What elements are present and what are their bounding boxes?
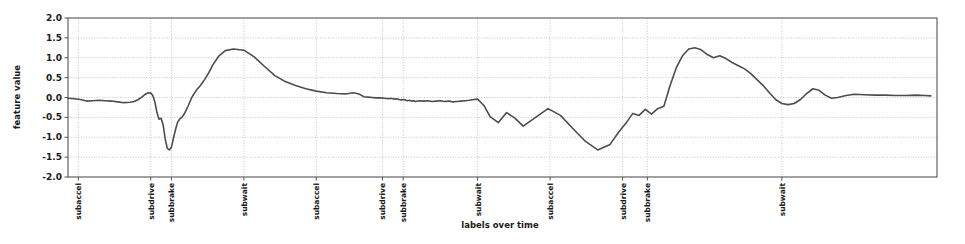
x-tick-label: subwait [474, 183, 483, 217]
y-tick-label: -1.0 [42, 132, 62, 142]
y-tick-label: 1.5 [46, 33, 62, 43]
x-tick-label: subaccel [74, 183, 83, 220]
x-tick-label: subdrive [619, 183, 628, 220]
x-tick-label: subaccel [546, 183, 555, 220]
y-tick-label: -1.5 [42, 152, 62, 162]
x-tick-label: subdrive [378, 183, 387, 220]
y-axis-title: feature value [12, 65, 22, 129]
y-tick-label: -0.5 [42, 112, 62, 122]
y-tick-label: 1.0 [46, 53, 62, 63]
chart-svg: 2.01.51.00.50.0-0.5-1.0-1.5-2.0 subaccel… [0, 0, 965, 244]
x-tick-label: subdrive [147, 183, 156, 220]
y-tick-label: 0.5 [46, 73, 62, 83]
x-axis-title: labels over time [461, 220, 539, 230]
y-tick-label: 2.0 [46, 13, 62, 23]
chart-figure: 2.01.51.00.50.0-0.5-1.0-1.5-2.0 subaccel… [0, 0, 965, 244]
y-tick-label: 0.0 [46, 93, 62, 103]
x-tick-label: subbrake [399, 183, 408, 222]
x-tick-label: subwait [778, 183, 787, 217]
y-tick-label: -2.0 [42, 172, 62, 182]
x-tick-label: subwait [240, 183, 249, 217]
x-tick-label: subbrake [167, 183, 176, 222]
x-tick-label: subbrake [643, 183, 652, 222]
x-tick-label: subaccel [312, 183, 321, 220]
